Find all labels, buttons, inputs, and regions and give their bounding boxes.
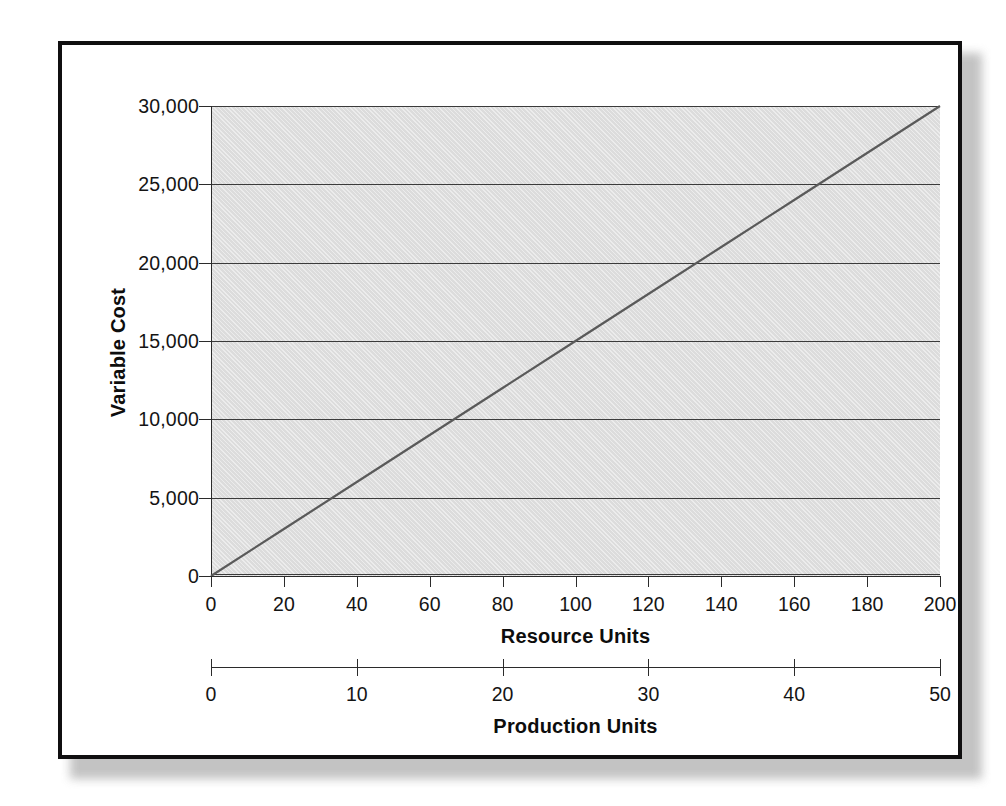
x-axis-tick-mark bbox=[576, 576, 577, 587]
x-axis-secondary-title: Production Units bbox=[211, 715, 940, 738]
y-axis-tick-mark bbox=[199, 106, 211, 107]
x-axis-secondary-tick-label: 0 bbox=[206, 683, 217, 706]
x-axis-primary: 020406080100120140160180200 Resource Uni… bbox=[211, 576, 940, 656]
y-axis-title: Variable Cost bbox=[107, 253, 130, 453]
y-axis-tick-label: 20,000 bbox=[138, 251, 199, 274]
x-axis-secondary-tick-mark bbox=[940, 659, 941, 676]
x-axis-secondary-tick-label: 20 bbox=[492, 683, 514, 706]
y-axis-tick-mark bbox=[199, 341, 211, 342]
y-axis-tick-mark bbox=[199, 263, 211, 264]
x-axis-tick-label: 200 bbox=[924, 593, 957, 616]
y-axis-tick-label: 10,000 bbox=[138, 408, 199, 431]
y-axis-tick-mark bbox=[199, 184, 211, 185]
x-axis-secondary-tick-mark bbox=[503, 659, 504, 676]
x-axis-secondary: 01020304050 Production Units bbox=[211, 667, 940, 757]
y-axis-tick-label: 15,000 bbox=[138, 330, 199, 353]
y-axis-tick-label: 0 bbox=[188, 565, 199, 588]
y-axis-tick-mark bbox=[199, 419, 211, 420]
x-axis-secondary-tick-label: 10 bbox=[346, 683, 368, 706]
x-axis-tick-label: 20 bbox=[273, 593, 295, 616]
x-axis-tick-mark bbox=[284, 576, 285, 587]
y-axis-tick-mark bbox=[199, 498, 211, 499]
x-axis-tick-label: 100 bbox=[559, 593, 592, 616]
x-axis-tick-mark bbox=[503, 576, 504, 587]
x-axis-tick-label: 180 bbox=[851, 593, 884, 616]
x-axis-primary-title: Resource Units bbox=[211, 625, 940, 648]
y-axis-tick-label: 5,000 bbox=[149, 486, 199, 509]
y-axis-tick-label: 30,000 bbox=[138, 95, 199, 118]
x-axis-secondary-tick-label: 40 bbox=[783, 683, 805, 706]
x-axis-tick-mark bbox=[211, 576, 212, 587]
y-axis-tick-labels: 05,00010,00015,00020,00025,00030,000 bbox=[62, 106, 199, 576]
x-axis-tick-label: 140 bbox=[705, 593, 738, 616]
chart-canvas: 05,00010,00015,00020,00025,00030,000 Var… bbox=[62, 45, 958, 755]
x-axis-tick-label: 160 bbox=[778, 593, 811, 616]
x-axis-tick-label: 0 bbox=[206, 593, 217, 616]
data-series-variable-cost bbox=[211, 106, 940, 576]
x-axis-secondary-tick-mark bbox=[357, 659, 358, 676]
x-axis-tick-label: 60 bbox=[419, 593, 441, 616]
x-axis-secondary-tick-mark bbox=[211, 659, 212, 676]
x-axis-tick-mark bbox=[430, 576, 431, 587]
x-axis-secondary-line bbox=[211, 667, 940, 668]
series-line-path bbox=[211, 106, 940, 576]
x-axis-tick-mark bbox=[794, 576, 795, 587]
x-axis-tick-mark bbox=[648, 576, 649, 587]
x-axis-secondary-tick-mark bbox=[648, 659, 649, 676]
x-axis-tick-mark bbox=[357, 576, 358, 587]
x-axis-secondary-tick-mark bbox=[794, 659, 795, 676]
x-axis-secondary-tick-label: 50 bbox=[929, 683, 951, 706]
chart-figure-frame: 05,00010,00015,00020,00025,00030,000 Var… bbox=[58, 41, 962, 759]
x-axis-tick-label: 80 bbox=[492, 593, 514, 616]
x-axis-tick-label: 40 bbox=[346, 593, 368, 616]
y-axis-tick-label: 25,000 bbox=[138, 173, 199, 196]
x-axis-tick-mark bbox=[940, 576, 941, 587]
x-axis-secondary-tick-label: 30 bbox=[638, 683, 660, 706]
x-axis-tick-mark bbox=[867, 576, 868, 587]
x-axis-tick-label: 120 bbox=[632, 593, 665, 616]
x-axis-tick-mark bbox=[721, 576, 722, 587]
y-axis-tick-mark bbox=[199, 576, 211, 577]
